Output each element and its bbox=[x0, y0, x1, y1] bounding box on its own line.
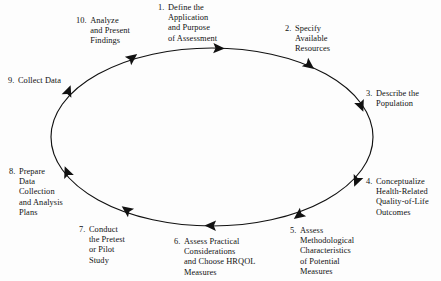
step-label-2: 2. Specify Available Resources bbox=[285, 24, 330, 55]
step-text-6: Assess Practical Considerations and Choo… bbox=[184, 237, 256, 278]
step-text-10: Analyze and Present Findings bbox=[90, 16, 130, 47]
arrowhead-9 bbox=[62, 83, 76, 97]
step-text-5: Assess Methodological Characteristics of… bbox=[300, 226, 354, 277]
step-text-3: Describe the Population bbox=[376, 89, 419, 109]
step-label-6: 6. Assess Practical Considerations and C… bbox=[174, 237, 255, 278]
step-label-5: 5. Assess Methodological Characteristics… bbox=[290, 226, 354, 277]
step-number-2: 2. bbox=[285, 24, 295, 34]
step-number-1: 1. bbox=[158, 3, 168, 13]
step-label-1: 1. Define the Application and Purpose of… bbox=[158, 3, 217, 44]
step-number-3: 3. bbox=[366, 89, 376, 99]
step-number-6: 6. bbox=[174, 237, 184, 247]
step-label-4: 4. Conceptualize Health-Related Quality-… bbox=[366, 177, 429, 218]
step-text-8: Prepare Data Collection and Analysis Pla… bbox=[19, 167, 63, 218]
cycle-ellipse-path bbox=[51, 48, 373, 226]
step-label-10: 10. Analyze and Present Findings bbox=[76, 16, 130, 47]
step-number-4: 4. bbox=[366, 177, 376, 187]
diagram-canvas: 1. Define the Application and Purpose of… bbox=[0, 0, 441, 281]
arrowhead-2 bbox=[302, 58, 317, 73]
step-label-8: 8. Prepare Data Collection and Analysis … bbox=[9, 167, 63, 218]
step-text-1: Define the Application and Purpose of As… bbox=[168, 3, 217, 44]
step-label-7: 7. Conduct the Pretest or Pilot Study bbox=[79, 225, 125, 266]
step-text-2: Specify Available Resources bbox=[295, 24, 330, 55]
step-label-3: 3. Describe the Population bbox=[366, 89, 419, 109]
cycle-arrowheads bbox=[60, 43, 368, 231]
step-number-7: 7. bbox=[79, 225, 89, 235]
step-number-9: 9. bbox=[8, 76, 18, 86]
step-number-10: 10. bbox=[76, 16, 90, 26]
step-number-5: 5. bbox=[290, 226, 300, 236]
arrowhead-7 bbox=[119, 202, 134, 217]
step-number-8: 8. bbox=[9, 167, 19, 177]
step-text-7: Conduct the Pretest or Pilot Study bbox=[89, 225, 125, 266]
step-label-9: 9. Collect Data bbox=[8, 76, 61, 86]
step-text-4: Conceptualize Health-Related Quality-of-… bbox=[376, 177, 429, 218]
step-text-9: Collect Data bbox=[18, 76, 61, 86]
